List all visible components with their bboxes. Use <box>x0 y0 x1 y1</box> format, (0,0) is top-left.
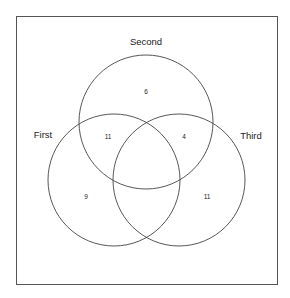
set-label-second: Second <box>130 36 162 47</box>
region-first-second: 11 <box>105 133 112 140</box>
region-third-only: 11 <box>204 193 211 200</box>
region-first-only: 9 <box>84 193 88 200</box>
set-label-first: First <box>34 129 53 140</box>
circle-first <box>48 114 180 246</box>
venn-diagram: Second First Third 6 11 4 9 11 <box>0 0 290 298</box>
region-second-only: 6 <box>144 88 148 95</box>
set-label-third: Third <box>240 130 262 141</box>
region-second-third: 4 <box>182 133 186 140</box>
